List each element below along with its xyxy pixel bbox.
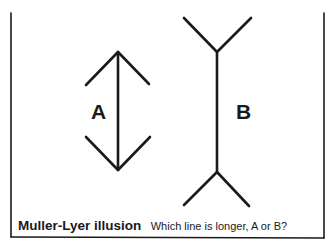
label-a: A — [91, 101, 106, 122]
frame-border — [11, 13, 324, 238]
caption-title: Muller-Lyer illusion — [18, 218, 141, 233]
caption: Muller-Lyer illusion Which line is longe… — [18, 216, 287, 234]
caption-question: Which line is longer, A or B? — [151, 220, 287, 232]
illusion-figure — [0, 0, 333, 248]
label-b: B — [236, 101, 251, 122]
